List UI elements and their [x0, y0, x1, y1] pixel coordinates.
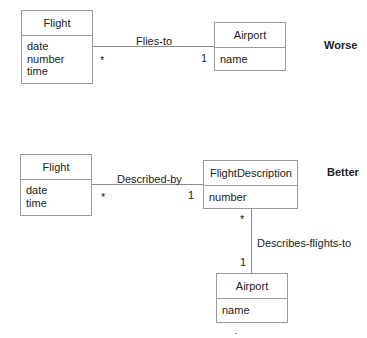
attribute: name [220, 53, 285, 66]
worse-flight-class: Flight date number time [21, 10, 93, 84]
description-multiplicity: * [240, 213, 244, 225]
flight-description-attributes: number [204, 186, 297, 208]
airport-multiplicity: 1 [240, 256, 246, 268]
better-airport-class: Airport name [216, 273, 288, 323]
airport-multiplicity: 1 [201, 52, 207, 64]
flight-description-class-name: FlightDescription [204, 161, 297, 186]
better-airport-attributes: name [217, 299, 287, 322]
describes-flights-to-label: Describes-flights-to [257, 237, 351, 249]
worse-tag: Worse [324, 39, 357, 51]
worse-flight-attributes: date number time [22, 36, 92, 83]
worse-airport-class: Airport name [214, 22, 286, 71]
flight-description-class: FlightDescription number [203, 160, 298, 209]
worse-flight-class-name: Flight [22, 11, 92, 36]
description-multiplicity: 1 [188, 189, 194, 201]
attribute: date [26, 184, 91, 197]
attribute: number [209, 191, 297, 204]
flight-multiplicity: * [101, 191, 105, 203]
better-tag: Better [327, 166, 359, 178]
attribute: date [27, 40, 92, 53]
flies-to-label: Flies-to [136, 35, 172, 47]
attribute: number [27, 53, 92, 66]
attribute: time [26, 197, 91, 210]
scan-artifact [235, 333, 237, 334]
better-flight-class: Flight date time [20, 154, 92, 216]
attribute: time [27, 65, 92, 78]
worse-airport-attributes: name [215, 48, 285, 70]
describes-flights-to-association-line [251, 209, 252, 273]
described-by-label: Described-by [117, 173, 182, 185]
better-flight-attributes: date time [21, 180, 91, 215]
worse-airport-class-name: Airport [215, 23, 285, 48]
attribute: name [222, 304, 287, 317]
better-airport-class-name: Airport [217, 274, 287, 299]
better-flight-class-name: Flight [21, 155, 91, 180]
flight-multiplicity: * [100, 54, 104, 66]
